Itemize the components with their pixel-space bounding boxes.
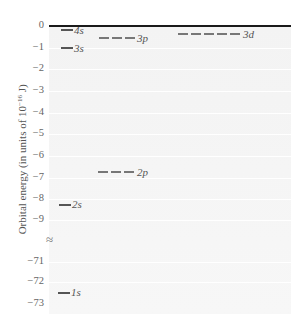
- y-tick: −2: [33, 63, 44, 74]
- y-tick: −9: [33, 214, 44, 225]
- gridline: [49, 220, 291, 221]
- gridline: [49, 262, 291, 263]
- level-2s: [59, 204, 71, 206]
- label-3s: 3s: [74, 43, 84, 54]
- y-axis-label: Orbital energy (in units of 10−16 J): [16, 94, 29, 234]
- level-4s: [61, 29, 73, 31]
- level-3p: [99, 37, 137, 39]
- y-tick: −1: [33, 42, 44, 53]
- y-tick: −72: [28, 276, 44, 287]
- gridline: [49, 178, 291, 179]
- gridline: [49, 199, 291, 200]
- level-3s: [61, 47, 73, 49]
- label-1s: 1s: [71, 287, 81, 298]
- y-tick: 0: [39, 20, 44, 31]
- gridline: [49, 156, 291, 157]
- gridline: [49, 113, 291, 114]
- gridline: [49, 48, 291, 49]
- y-tick: −6: [33, 150, 44, 161]
- level-2p: [98, 171, 136, 173]
- level-3d: [178, 33, 240, 35]
- gridline: [49, 282, 291, 283]
- y-tick: −5: [33, 128, 44, 139]
- gridline: [49, 134, 291, 135]
- y-tick: −71: [28, 256, 44, 267]
- label-3p: 3p: [137, 33, 148, 44]
- axis-break-symbol: ≈: [46, 233, 53, 246]
- y-tick: −7: [33, 172, 44, 183]
- y-tick: −8: [33, 193, 44, 204]
- zero-energy-line: [49, 25, 291, 27]
- y-tick: −73: [28, 298, 44, 309]
- label-4s: 4s: [74, 25, 84, 36]
- y-tick: −4: [33, 107, 44, 118]
- label-2s: 2s: [72, 199, 82, 210]
- gridline: [49, 91, 291, 92]
- gridline: [49, 69, 291, 70]
- label-2p: 2p: [137, 167, 148, 178]
- label-3d: 3d: [243, 29, 254, 40]
- y-tick: −3: [33, 85, 44, 96]
- level-1s: [58, 292, 70, 294]
